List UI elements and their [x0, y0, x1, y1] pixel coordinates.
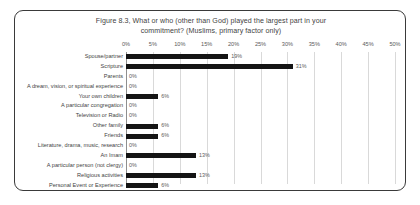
category-label: Other family [93, 121, 126, 131]
bar-value-label: 6% [158, 131, 169, 141]
category-label: Television or Radio [76, 111, 126, 121]
bar-value-label: 6% [158, 181, 169, 191]
category-label: A particular person (not clergy) [47, 161, 126, 171]
x-axis-tick-label: 15% [201, 41, 212, 47]
category-label: An Imam [101, 151, 126, 161]
bar-row: A particular congregation0% [15, 101, 407, 111]
x-axis-tick-label: 10% [174, 41, 185, 47]
bar [126, 134, 158, 139]
bar-value-label: 0% [126, 161, 137, 171]
bar [126, 54, 228, 59]
bar [126, 94, 158, 99]
bar-row: Religious activities13% [15, 171, 407, 181]
bar-value-label: 0% [126, 72, 137, 82]
chart-title: Figure 8.3, What or who (other than God)… [33, 17, 389, 36]
bar-value-label: 0% [126, 141, 137, 151]
category-label: Literature, drama, music, research [38, 141, 126, 151]
bar-value-label: 0% [126, 111, 137, 121]
bar-row: A particular person (not clergy)0% [15, 161, 407, 171]
x-axis-tick-label: 30% [282, 41, 293, 47]
bar-value-label: 0% [126, 82, 137, 92]
bar-row: Your own children6% [15, 92, 407, 102]
chart-title-line-2: commitment? (Muslims, primary factor onl… [33, 27, 389, 37]
category-label: Friends [104, 131, 126, 141]
x-axis-tick-label: 20% [228, 41, 239, 47]
category-label: Personal Event or Experience [49, 181, 126, 191]
bar-row: Television or Radio0% [15, 111, 407, 121]
category-label: Parents [104, 72, 126, 82]
bar [126, 153, 196, 158]
chart-card: Figure 8.3, What or who (other than God)… [14, 10, 406, 191]
bar-row: An Imam13% [15, 151, 407, 161]
x-axis-tick-label: 45% [362, 41, 373, 47]
x-axis-tick-label: 40% [336, 41, 347, 47]
category-label: A dream, vision, or spiritual experience [27, 82, 126, 92]
bar [126, 64, 293, 69]
x-axis-tick-labels: 0%5%10%15%20%25%30%35%40%45%50% [15, 41, 407, 52]
bar-value-label: 31% [293, 62, 307, 72]
x-axis-tick-label: 50% [389, 41, 400, 47]
bar-value-label: 0% [126, 101, 137, 111]
plot-area: 0%5%10%15%20%25%30%35%40%45%50% Spouse/p… [15, 41, 407, 189]
bar [126, 124, 158, 129]
category-label: Spouse/partner [85, 52, 126, 62]
x-axis-tick-label: 0% [122, 41, 130, 47]
bar-row: Literature, drama, music, research0% [15, 141, 407, 151]
bar-value-label: 6% [158, 121, 169, 131]
bar-row: Spouse/partner19% [15, 52, 407, 62]
category-label: Your own children [79, 92, 126, 102]
x-axis-tick-label: 25% [255, 41, 266, 47]
bar-row: Personal Event or Experience6% [15, 181, 407, 191]
bar-value-label: 19% [228, 52, 242, 62]
category-label: Scripture [101, 62, 126, 72]
bar-row: Friends6% [15, 131, 407, 141]
bar [126, 183, 158, 188]
bar-value-label: 13% [196, 171, 210, 181]
bar-value-label: 13% [196, 151, 210, 161]
bar-row: A dream, vision, or spiritual experience… [15, 82, 407, 92]
x-axis-tick-label: 5% [149, 41, 157, 47]
bar-rows: Spouse/partner19%Scripture31%Parents0%A … [15, 52, 407, 184]
bar-row: Parents0% [15, 72, 407, 82]
category-label: A particular congregation [61, 101, 126, 111]
chart-title-line-1: Figure 8.3, What or who (other than God)… [33, 17, 389, 27]
bar [126, 173, 196, 178]
bar-row: Scripture31% [15, 62, 407, 72]
bar-value-label: 6% [158, 92, 169, 102]
category-label: Religious activities [77, 171, 126, 181]
bar-row: Other family6% [15, 121, 407, 131]
x-axis-tick-label: 35% [309, 41, 320, 47]
